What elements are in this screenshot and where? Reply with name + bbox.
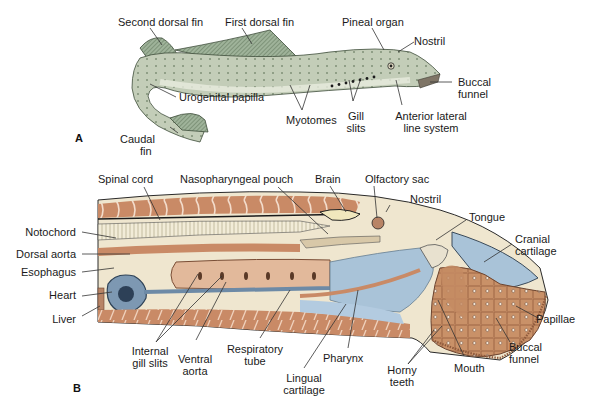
label-buccal-funnel-a-line2: funnel bbox=[458, 88, 488, 100]
label-liver: Liver bbox=[6, 313, 76, 325]
label-pharynx: Pharynx bbox=[323, 352, 363, 364]
label-gill-slits-line1: Gill bbox=[346, 110, 366, 122]
label-buccal-funnel-a-line1: Buccal bbox=[458, 76, 491, 88]
label-respiratory-tube-line2: tube bbox=[220, 355, 290, 367]
label-ventral-aorta-line2: aorta bbox=[175, 365, 215, 377]
label-horny-teeth-line1: Horny bbox=[382, 364, 422, 376]
label-nostril-b: Nostril bbox=[410, 193, 441, 205]
label-nasopharyngeal-pouch: Nasopharyngeal pouch bbox=[180, 173, 293, 185]
label-anterior-lateral-line-1: Anterior lateral bbox=[381, 110, 481, 122]
label-ventral-aorta-line1: Ventral bbox=[175, 353, 215, 365]
label-esophagus: Esophagus bbox=[6, 266, 76, 278]
label-brain: Brain bbox=[315, 173, 341, 185]
label-lingual-cartilage-line1: Lingual bbox=[276, 372, 332, 384]
label-heart: Heart bbox=[6, 289, 76, 301]
label-dorsal-aorta: Dorsal aorta bbox=[6, 248, 76, 260]
label-second-dorsal-fin: Second dorsal fin bbox=[118, 16, 203, 28]
label-first-dorsal-fin: First dorsal fin bbox=[225, 16, 294, 28]
label-urogenital-papilla: Urogenital papilla bbox=[179, 91, 264, 103]
panel-b-letter: B bbox=[73, 382, 81, 394]
label-horny-teeth-line2: teeth bbox=[382, 376, 422, 388]
label-cranial-cartilage-line1: Cranial bbox=[515, 233, 550, 245]
label-olfactory-sac: Olfactory sac bbox=[365, 173, 429, 185]
label-tongue: Tongue bbox=[469, 211, 505, 223]
label-spinal-cord: Spinal cord bbox=[98, 173, 153, 185]
label-cranial-cartilage-line2: cartilage bbox=[515, 245, 557, 257]
label-pineal-organ: Pineal organ bbox=[342, 16, 404, 28]
label-buccal-funnel-b-line2: funnel bbox=[509, 353, 539, 365]
label-caudal-fin-line2: fin bbox=[140, 145, 152, 157]
label-buccal-funnel-b-line1: Buccal bbox=[509, 341, 542, 353]
label-respiratory-tube-line1: Respiratory bbox=[220, 343, 290, 355]
label-nostril-a: Nostril bbox=[414, 35, 445, 47]
label-gill-slits-line2: slits bbox=[346, 122, 366, 134]
label-caudal-fin-line1: Caudal bbox=[120, 133, 155, 145]
label-internal-gill-slits-line1: Internal bbox=[120, 345, 180, 357]
label-notochord: Notochord bbox=[10, 226, 76, 238]
panel-a-letter: A bbox=[75, 132, 83, 144]
label-papillae: Papillae bbox=[536, 313, 575, 325]
label-myotomes: Myotomes bbox=[286, 114, 337, 126]
figure-artwork bbox=[0, 0, 594, 412]
label-internal-gill-slits-line2: gill slits bbox=[120, 357, 180, 369]
lamprey-anatomy-figure: A Second dorsal fin First dorsal fin Pin… bbox=[0, 0, 594, 412]
label-mouth: Mouth bbox=[454, 362, 485, 374]
label-anterior-lateral-line-2: line system bbox=[381, 122, 481, 134]
label-lingual-cartilage-line2: cartilage bbox=[276, 384, 332, 396]
